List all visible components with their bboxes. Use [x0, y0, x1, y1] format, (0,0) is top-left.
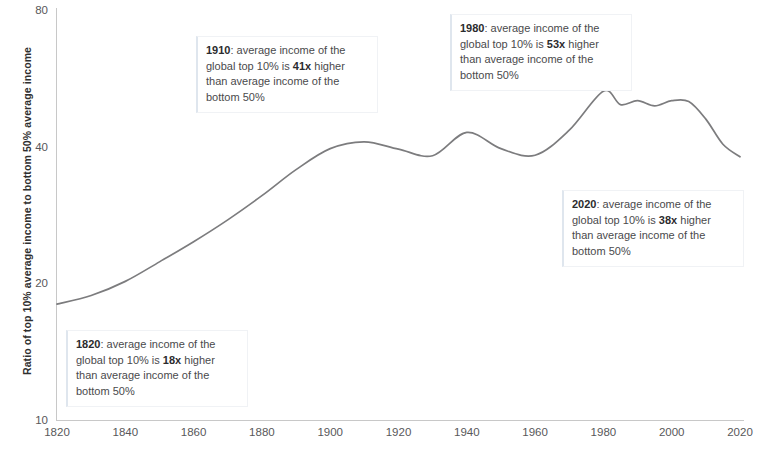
annotation-1910-text: 1910: average income of the global top 1…: [206, 44, 345, 103]
annotation-1910: 1910: average income of the global top 1…: [196, 36, 378, 113]
annotation-1980: 1980: average income of the global top 1…: [450, 14, 632, 91]
annotation-2020: 2020: average income of the global top 1…: [562, 190, 744, 267]
annotation-1980-text: 1980: average income of the global top 1…: [460, 22, 599, 81]
annotation-1820-year: 1820: [76, 338, 100, 350]
annotation-2020-year: 2020: [572, 198, 596, 210]
annotation-2020-multiple: 38x: [659, 214, 677, 226]
annotation-1910-multiple: 41x: [293, 60, 311, 72]
annotation-2020-text: 2020: average income of the global top 1…: [572, 198, 711, 257]
chart-container: Ratio of top 10% average income to botto…: [0, 0, 764, 451]
annotation-1820: 1820: average income of the global top 1…: [66, 330, 248, 407]
annotation-1980-year: 1980: [460, 22, 484, 34]
annotation-1910-year: 1910: [206, 44, 230, 56]
annotation-1820-text: 1820: average income of the global top 1…: [76, 338, 215, 397]
annotation-1980-multiple: 53x: [547, 38, 565, 50]
annotation-1820-multiple: 18x: [163, 354, 181, 366]
